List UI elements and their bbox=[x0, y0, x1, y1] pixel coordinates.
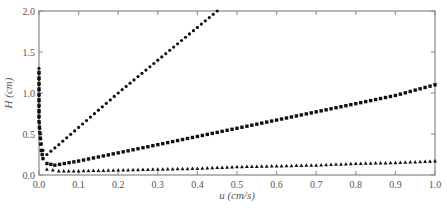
svg-text:0.1: 0.1 bbox=[72, 179, 85, 190]
svg-text:0.2: 0.2 bbox=[112, 179, 125, 190]
scatter-chart: 0.00.10.20.30.40.50.60.70.80.91.0 0.00.5… bbox=[0, 0, 447, 208]
svg-text:1.0: 1.0 bbox=[429, 179, 442, 190]
plot-frame bbox=[39, 11, 435, 175]
svg-text:0.3: 0.3 bbox=[152, 179, 165, 190]
svg-text:1.5: 1.5 bbox=[23, 47, 36, 58]
svg-text:0.9: 0.9 bbox=[389, 179, 402, 190]
data-series bbox=[37, 71, 436, 167]
y-axis-ticks: 0.00.51.01.52.0 bbox=[23, 6, 436, 181]
y-axis-label: H (cm) bbox=[2, 77, 15, 109]
svg-text:2.0: 2.0 bbox=[23, 6, 36, 17]
data-series bbox=[37, 9, 218, 156]
series-layer bbox=[37, 9, 437, 172]
svg-text:0.4: 0.4 bbox=[191, 179, 204, 190]
data-series bbox=[45, 159, 437, 172]
svg-text:1.0: 1.0 bbox=[23, 88, 36, 99]
svg-text:0.5: 0.5 bbox=[23, 129, 36, 140]
svg-text:0.0: 0.0 bbox=[23, 170, 36, 181]
svg-text:0.8: 0.8 bbox=[350, 179, 363, 190]
svg-text:0.7: 0.7 bbox=[310, 179, 323, 190]
svg-text:0.6: 0.6 bbox=[270, 179, 283, 190]
svg-text:0.0: 0.0 bbox=[33, 179, 46, 190]
x-axis-label: u (cm/s) bbox=[219, 189, 255, 202]
